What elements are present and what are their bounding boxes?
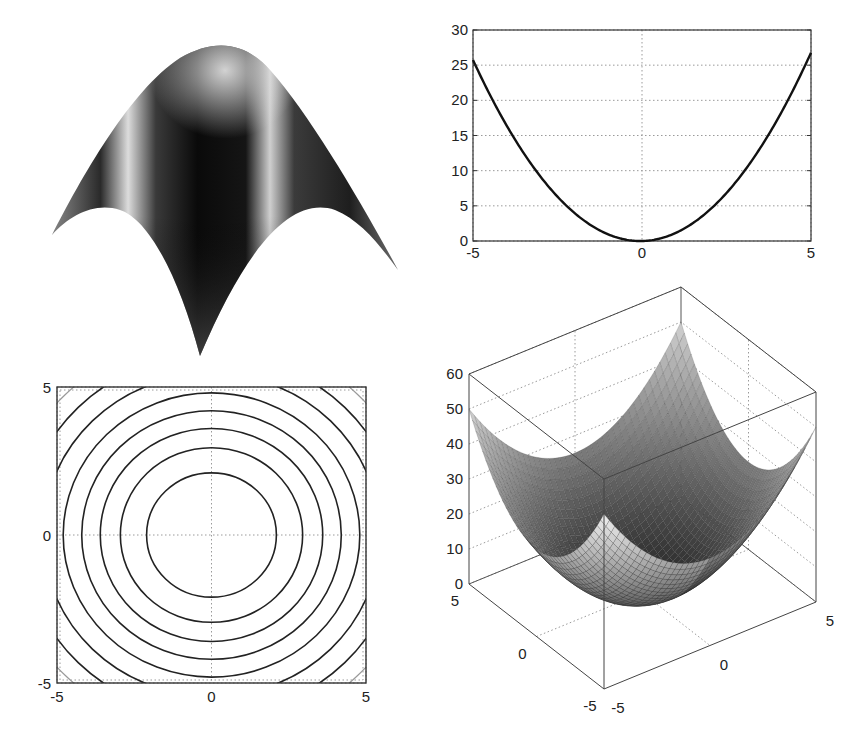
y-tick-label: 20 [451,91,468,108]
x-tick-label: 5 [807,244,815,261]
y-tick-label: -5 [583,697,596,714]
y-tick-label: 5 [43,379,51,396]
contour-plot: -505-505 [0,370,420,715]
y-tick-label: -5 [38,675,51,692]
x-tick-label: -5 [466,244,479,261]
parabola-line-plot: 051015202530-505 [420,0,864,275]
mesh-surface [469,322,816,606]
z-tick-label: 60 [446,365,463,382]
y-tick-label: 30 [451,21,468,38]
y-tick-label: 15 [451,127,468,144]
grid-lines [473,30,811,241]
y-tick-label: 10 [451,162,468,179]
z-tick-label: 10 [446,540,463,557]
z-tick-label: 30 [446,470,463,487]
x-tick-label: 5 [362,688,370,705]
z-tick-label: 50 [446,400,463,417]
shaded-surface-canvas [40,30,410,360]
y-tick-label: 25 [451,56,468,73]
contour-plot-canvas: -505-505 [0,370,420,715]
x-tick-label: -5 [50,688,63,705]
x-tick-label: 0 [720,656,728,673]
x-tick-label: -5 [611,699,624,716]
y-tick-label: 5 [460,197,468,214]
y-tick-label: 5 [451,592,459,609]
z-tick-label: 20 [446,505,463,522]
y-tick-label: 0 [518,645,526,662]
line-plot-canvas: 051015202530-505 [420,0,864,275]
x-tick-label: 5 [826,612,834,629]
z-tick-label: 0 [455,575,463,592]
grid-lines [57,387,366,683]
x-tick-label: 0 [207,688,215,705]
mesh-plot-canvas: 010203040506050-5-505 [420,325,864,725]
x-tick-label: 0 [638,244,646,261]
y-tick-label: 0 [43,527,51,544]
mesh-3d-plot: 010203040506050-5-505 [420,325,864,725]
z-tick-label: 40 [446,435,463,452]
shaded-surface-plot [40,30,410,360]
